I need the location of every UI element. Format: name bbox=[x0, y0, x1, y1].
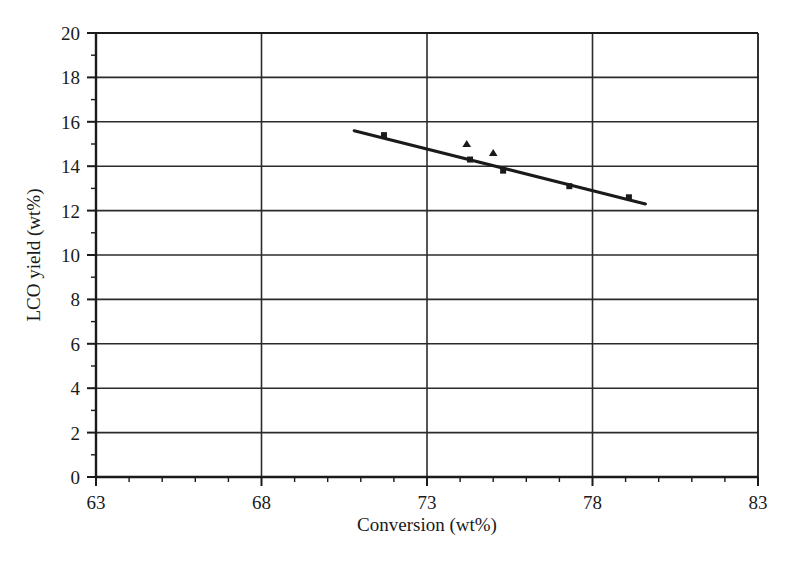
y-tick-label: 4 bbox=[71, 378, 81, 399]
x-tick-label: 73 bbox=[418, 492, 437, 513]
y-axis-title: LCO yield (wt%) bbox=[23, 189, 45, 322]
y-tick-label: 10 bbox=[61, 245, 80, 266]
x-tick-label: 63 bbox=[87, 492, 106, 513]
scatter-chart: 6368737883 02468101214161820 Conversion … bbox=[0, 0, 791, 562]
figure-container: 6368737883 02468101214161820 Conversion … bbox=[0, 0, 791, 562]
y-tick-label: 18 bbox=[61, 67, 80, 88]
data-point-square bbox=[500, 168, 506, 174]
data-point-square bbox=[381, 132, 387, 138]
x-tick-label: 78 bbox=[583, 492, 602, 513]
y-tick-label: 0 bbox=[71, 467, 81, 488]
x-axis-title: Conversion (wt%) bbox=[357, 514, 497, 536]
data-point-square bbox=[626, 194, 632, 200]
y-tick-label: 16 bbox=[61, 112, 80, 133]
x-tick-label: 68 bbox=[252, 492, 271, 513]
data-point-square bbox=[467, 157, 473, 163]
y-tick-label: 2 bbox=[71, 423, 81, 444]
y-tick-label: 14 bbox=[61, 156, 81, 177]
y-tick-label: 8 bbox=[71, 289, 81, 310]
y-tick-label: 12 bbox=[61, 201, 80, 222]
data-point-square bbox=[566, 183, 572, 189]
y-tick-label: 6 bbox=[71, 334, 81, 355]
y-tick-label: 20 bbox=[61, 23, 80, 44]
x-tick-label: 83 bbox=[749, 492, 768, 513]
